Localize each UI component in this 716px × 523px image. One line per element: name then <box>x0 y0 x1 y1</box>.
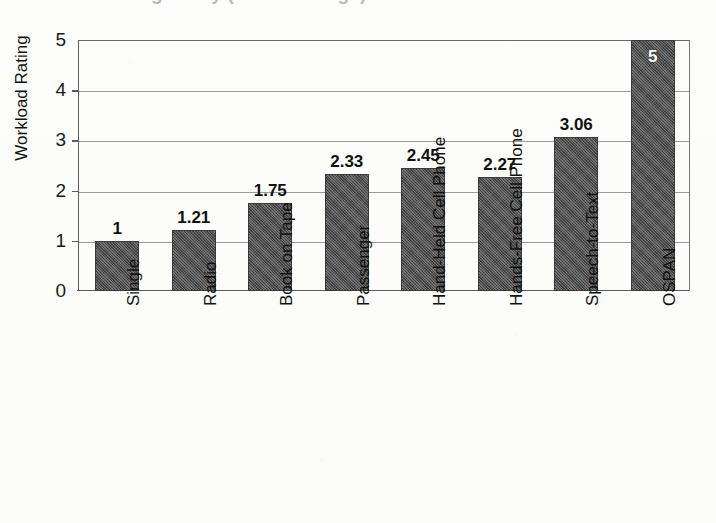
x-axis-label: Radio <box>201 262 221 306</box>
y-axis-tick-label-1: 1 <box>38 230 66 252</box>
x-axis-label: OSPAN <box>660 248 680 306</box>
y-axis-tick-label-0: 0 <box>38 280 66 302</box>
y-axis-title: Workload Rating <box>12 13 32 183</box>
x-axis-label: Speech-to-Text <box>583 192 603 306</box>
x-axis-label: Single <box>124 259 144 306</box>
y-axis-tick-label-4: 4 <box>38 79 66 101</box>
bar-value-label: 1.75 <box>254 181 287 201</box>
bar-value-label: 1.21 <box>177 208 210 228</box>
bar-value-label: 5 <box>648 47 657 67</box>
bar-value-label: 1 <box>113 219 122 239</box>
bar-value-label: 3.06 <box>560 115 593 135</box>
y-axis-tick-label-2: 2 <box>38 180 66 202</box>
x-axis-label: Passenger <box>354 225 374 306</box>
y-axis-tick-label-5: 5 <box>38 29 66 51</box>
x-axis-label: Hand-Held Cell Phone <box>430 137 450 306</box>
x-axis-label: Hands-Free Cell Phone <box>507 128 527 306</box>
y-axis-tick-label-3: 3 <box>38 129 66 151</box>
x-axis-label: Book on Tape <box>277 202 297 306</box>
bar-value-label: 2.33 <box>330 152 363 172</box>
gridline-4 <box>79 91 689 92</box>
